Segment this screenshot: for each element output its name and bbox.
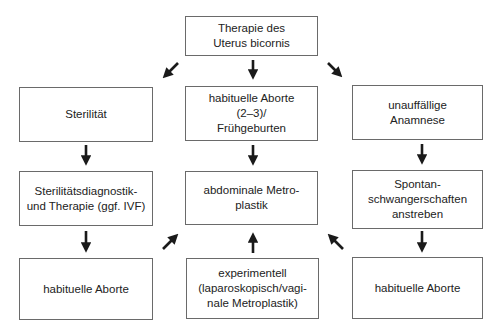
arrow-root-to-unauffaellige-anamnese — [328, 63, 339, 74]
node-label: Sterilitätsdiagnostik- und Therapie (ggf… — [27, 184, 146, 214]
node-label: experimentell (laparoskopisch/vagi- nale… — [198, 266, 307, 311]
node-habituelle-aborte-right: habituelle Aborte — [352, 257, 483, 319]
node-spontanschwangerschaften: Spontan- schwangerschaften anstreben — [352, 170, 483, 229]
arrow-habituelle-aborte-right-to-metroplastik — [331, 237, 343, 249]
node-sterilitaet: Sterilität — [19, 87, 153, 142]
node-label: habituelle Aborte (2–3)/ Frühgeburten — [209, 91, 295, 136]
node-label: Sterilität — [65, 107, 107, 122]
node-label: Spontan- schwangerschaften anstreben — [368, 177, 467, 222]
node-label: habituelle Aborte — [375, 281, 461, 296]
arrow-habituelle-aborte-left-to-metroplastik — [163, 237, 175, 249]
node-label: abdominale Metro- plastik — [204, 183, 300, 213]
node-sterilitaetsdiagnostik-therapie: Sterilitätsdiagnostik- und Therapie (ggf… — [19, 171, 153, 226]
arrow-root-to-sterilitaet — [166, 63, 178, 75]
node-habituelle-aborte-fruehgeburten: habituelle Aborte (2–3)/ Frühgeburten — [185, 86, 318, 141]
node-unauffaellige-anamnese: unauffällige Anamnese — [352, 85, 483, 140]
node-experimentell: experimentell (laparoskopisch/vagi- nale… — [186, 258, 319, 319]
node-therapie-uterus-bicornis: Therapie des Uterus bicornis — [185, 16, 318, 56]
node-abdominale-metroplastik: abdominale Metro- plastik — [185, 171, 318, 225]
node-label: unauffällige Anamnese — [388, 98, 447, 128]
node-habituelle-aborte-left: habituelle Aborte — [19, 258, 153, 320]
node-label: habituelle Aborte — [43, 282, 129, 297]
node-label: Therapie des Uterus bicornis — [213, 21, 290, 51]
